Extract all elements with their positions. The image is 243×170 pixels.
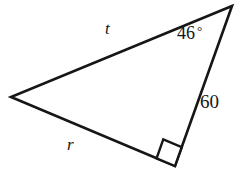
angle-measure-label: 46° (177, 24, 202, 42)
triangle-drawing (0, 0, 243, 170)
side-label-r: r (67, 136, 74, 153)
geometry-figure: t r 60 46° (0, 0, 243, 170)
angle-value-text: 46 (177, 23, 195, 43)
degree-symbol-icon: ° (195, 23, 202, 38)
side-length-label-60: 60 (200, 92, 219, 111)
side-label-t: t (105, 20, 110, 37)
